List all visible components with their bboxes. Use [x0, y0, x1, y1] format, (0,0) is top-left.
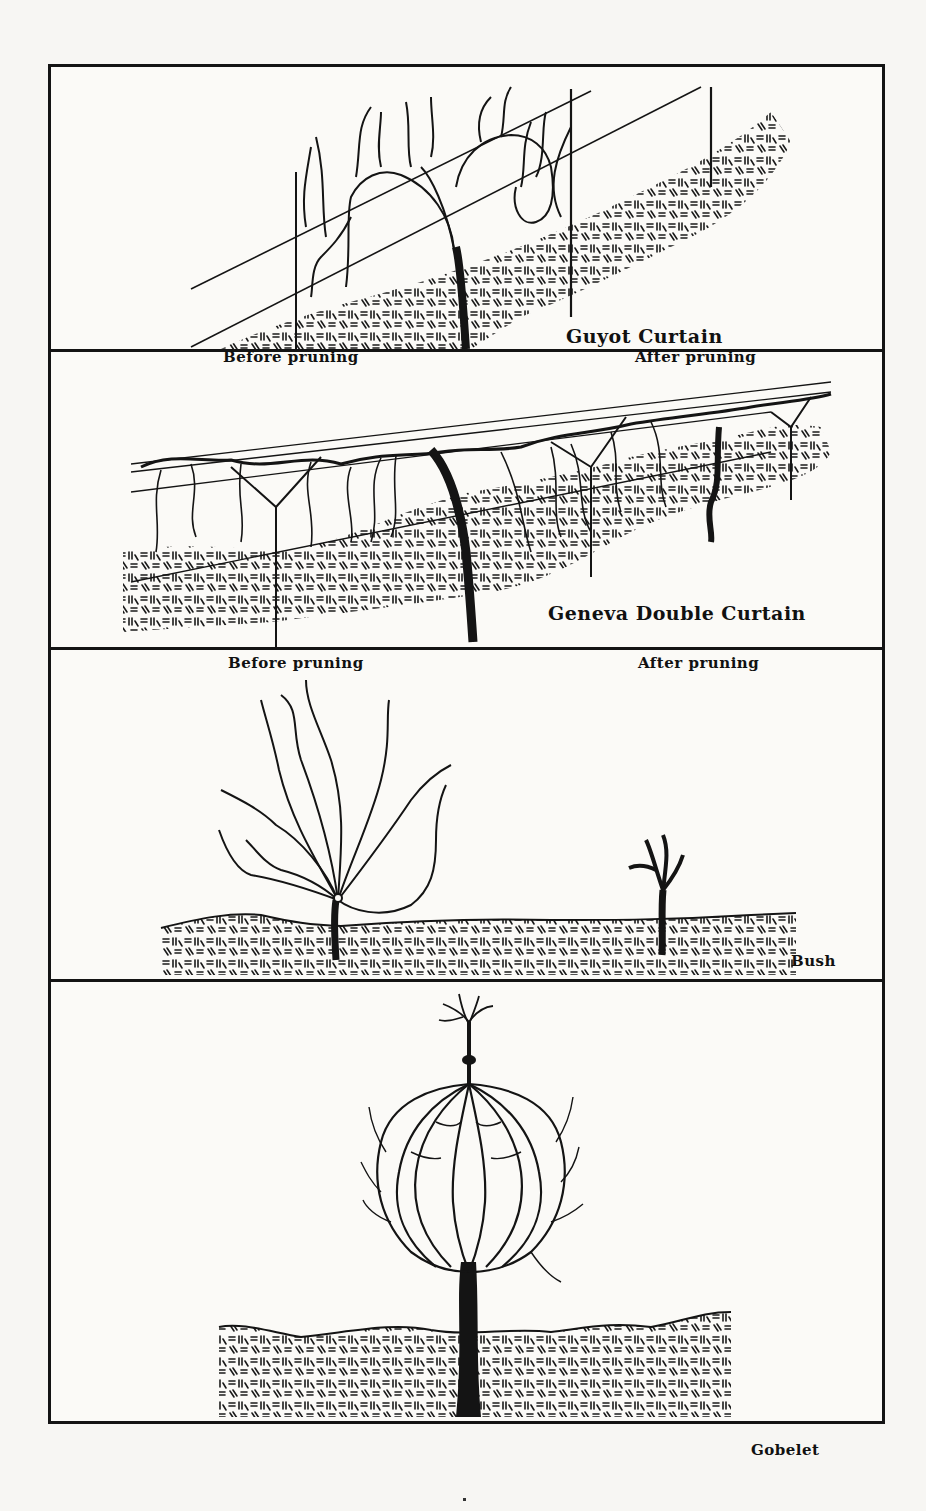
panel-guyot-curtain: Guyot Curtain: [51, 67, 882, 349]
label-after-pruning-geneva: After pruning: [635, 348, 756, 366]
label-before-pruning-bush: Before pruning: [228, 654, 364, 672]
figure-frame: Guyot Curtain: [48, 64, 885, 1424]
title-bush: Bush: [791, 952, 836, 970]
gobelet-illustration: [51, 982, 882, 1421]
panel-geneva-double-curtain: Before pruning After pruning Geneva Doub…: [51, 352, 882, 647]
bush-illustration: [51, 650, 882, 979]
panel-bush: Before pruning After pruning Bush: [51, 650, 882, 979]
title-gobelet: Gobelet: [751, 1441, 820, 1459]
page-mark: [463, 1498, 466, 1501]
title-guyot-curtain: Guyot Curtain: [566, 325, 723, 347]
guyot-curtain-illustration: [51, 67, 882, 349]
label-before-pruning-geneva: Before pruning: [223, 348, 359, 366]
title-geneva-double-curtain: Geneva Double Curtain: [548, 602, 806, 624]
panel-gobelet: Gobelet: [51, 982, 882, 1421]
label-after-pruning-bush: After pruning: [638, 654, 759, 672]
